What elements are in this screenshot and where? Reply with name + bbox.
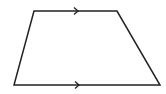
trapezoid-shape bbox=[14, 11, 160, 85]
trapezoid-diagram bbox=[0, 0, 166, 94]
